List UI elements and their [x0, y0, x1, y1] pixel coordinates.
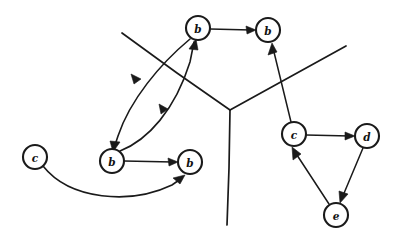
partition-branch-upper-left [122, 33, 230, 110]
node-label: c [291, 129, 298, 141]
edge-d-to-e [342, 148, 363, 198]
node-e[interactable]: e [324, 203, 348, 227]
node-label: d [363, 131, 371, 143]
node-b-lower-right[interactable]: b [178, 150, 202, 174]
node-b-top-left[interactable]: b [186, 16, 210, 40]
diagram-canvas: b b b b c c [0, 0, 399, 234]
node-b-lower-left[interactable]: b [100, 149, 124, 173]
node-label: b [108, 156, 115, 168]
node-label: c [32, 152, 39, 164]
arrow-head-b1-to-b2 [246, 26, 256, 34]
edge-e-to-c2 [295, 152, 329, 204]
node-label: b [264, 25, 271, 37]
partition-boundary [122, 33, 346, 225]
node-label: e [333, 210, 340, 222]
arrow-head-b3-to-b4 [168, 158, 178, 166]
node-label: b [194, 23, 201, 35]
arrow-head-c2-to-d [345, 132, 355, 140]
node-b-top-right[interactable]: b [256, 18, 280, 42]
node-c-right[interactable]: c [282, 122, 306, 146]
partition-branch-upper-right [230, 46, 346, 110]
edge-b1-to-b2 [210, 29, 251, 30]
edge-b3-to-b4 [124, 161, 173, 162]
graph-diagram: b b b b c c [0, 0, 399, 234]
edge-c2-to-d [306, 135, 350, 136]
partition-branch-lower [227, 110, 230, 225]
node-d[interactable]: d [355, 124, 379, 148]
arrow-head-crossing-upper [131, 74, 141, 84]
arrow-head-c2-to-b2 [268, 43, 277, 55]
arrow-head-d-to-e [339, 191, 348, 203]
graph-edges [43, 26, 363, 204]
node-c-far-left[interactable]: c [23, 145, 47, 169]
node-label: b [186, 157, 193, 169]
graph-nodes: b b b b c c [23, 16, 379, 227]
